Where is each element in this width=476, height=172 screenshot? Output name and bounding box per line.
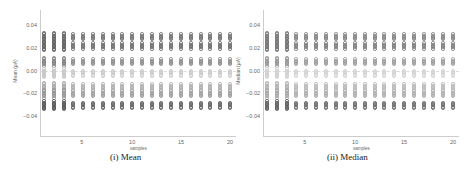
- data-point: [111, 94, 115, 98]
- data-point: [324, 74, 328, 78]
- data-point: [120, 94, 124, 98]
- data-point: [42, 107, 46, 111]
- data-point: [52, 107, 56, 111]
- y-axis-line: [263, 10, 264, 136]
- data-point: [285, 75, 289, 79]
- data-point: [101, 106, 105, 110]
- data-point: [431, 62, 435, 66]
- data-point: [363, 74, 367, 78]
- data-point: [285, 48, 289, 52]
- data-point: [91, 74, 95, 78]
- y-tick-label: 0.00: [26, 68, 37, 74]
- data-point: [169, 47, 173, 51]
- data-point: [373, 62, 377, 66]
- data-point: [412, 62, 416, 66]
- data-point: [81, 47, 85, 51]
- data-point: [353, 74, 357, 78]
- data-point: [265, 48, 269, 52]
- data-point: [218, 47, 222, 51]
- data-point: [179, 106, 183, 110]
- data-point: [363, 106, 367, 110]
- data-point: [294, 94, 298, 98]
- data-point: [373, 74, 377, 78]
- data-point: [130, 94, 134, 98]
- y-tick-label: −0.02: [23, 90, 37, 96]
- data-point: [412, 94, 416, 98]
- data-point: [334, 47, 338, 51]
- x-tick-label: 20: [450, 139, 456, 145]
- data-point: [218, 94, 222, 98]
- data-point: [324, 94, 328, 98]
- y-tick-label: 0.00: [249, 68, 260, 74]
- data-point: [169, 94, 173, 98]
- data-point: [314, 106, 318, 110]
- data-point: [392, 47, 396, 51]
- data-point: [130, 47, 134, 51]
- data-point: [159, 94, 163, 98]
- data-point: [265, 107, 269, 111]
- data-point: [392, 94, 396, 98]
- y-tick-label: −0.04: [246, 113, 260, 119]
- y-tick-label: 0.04: [249, 22, 260, 28]
- data-point: [101, 74, 105, 78]
- data-point: [140, 106, 144, 110]
- data-point: [343, 62, 347, 66]
- data-point: [441, 47, 445, 51]
- data-point: [71, 94, 75, 98]
- data-point: [120, 106, 124, 110]
- data-point: [140, 47, 144, 51]
- data-point: [392, 74, 396, 78]
- data-point: [431, 94, 435, 98]
- data-point: [169, 62, 173, 66]
- data-point: [91, 62, 95, 66]
- data-point: [208, 62, 212, 66]
- median-chart-panel: 0.040.020.00−0.02−0.045101520samplesMedi…: [236, 0, 474, 172]
- data-point: [140, 74, 144, 78]
- data-point: [111, 106, 115, 110]
- data-point: [81, 106, 85, 110]
- mean-chart-panel: 0.040.020.00−0.02−0.045101520samplesMean…: [0, 0, 238, 172]
- data-point: [412, 74, 416, 78]
- y-tick-label: 0.02: [249, 45, 260, 51]
- data-point: [324, 106, 328, 110]
- data-point: [304, 47, 308, 51]
- data-point: [81, 74, 85, 78]
- data-point: [71, 74, 75, 78]
- data-point: [91, 94, 95, 98]
- data-point: [441, 94, 445, 98]
- data-point: [392, 106, 396, 110]
- data-point: [199, 74, 203, 78]
- data-point: [412, 47, 416, 51]
- data-point: [392, 62, 396, 66]
- data-point: [130, 62, 134, 66]
- x-axis-label: samples: [130, 146, 147, 151]
- x-tick-label: 15: [178, 139, 184, 145]
- data-point: [208, 47, 212, 51]
- data-point: [169, 74, 173, 78]
- data-point: [275, 75, 279, 79]
- data-point: [150, 62, 154, 66]
- data-point: [42, 75, 46, 79]
- data-point: [101, 94, 105, 98]
- y-axis-line: [40, 10, 41, 136]
- data-point: [208, 74, 212, 78]
- y-tick-label: 0.02: [26, 45, 37, 51]
- data-point: [150, 94, 154, 98]
- data-point: [353, 47, 357, 51]
- data-point: [304, 94, 308, 98]
- data-point: [62, 75, 66, 79]
- data-point: [169, 106, 173, 110]
- data-point: [179, 62, 183, 66]
- median-caption: (ii) Median: [327, 152, 368, 162]
- y-axis-label: Mean (μA): [12, 56, 18, 86]
- data-point: [451, 106, 455, 110]
- data-point: [402, 106, 406, 110]
- data-point: [179, 74, 183, 78]
- data-point: [159, 62, 163, 66]
- data-point: [441, 106, 445, 110]
- data-point: [150, 106, 154, 110]
- data-point: [130, 74, 134, 78]
- data-point: [218, 106, 222, 110]
- x-tick-label: 10: [352, 139, 358, 145]
- data-point: [431, 106, 435, 110]
